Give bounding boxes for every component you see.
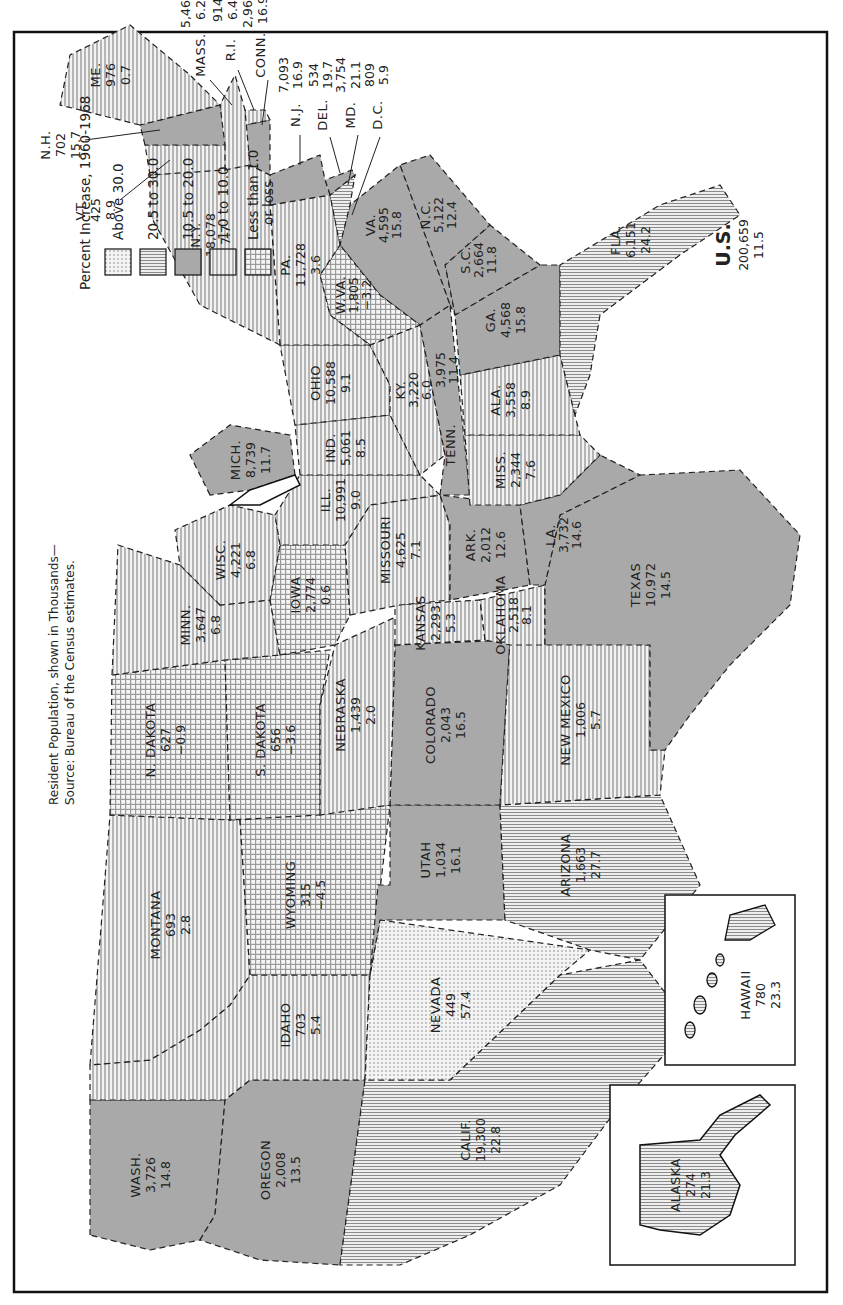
svg-text:OHIO: OHIO xyxy=(308,365,323,401)
svg-text:MICH.: MICH. xyxy=(228,440,243,480)
label-nj: N.J.7,09316.9 xyxy=(276,57,305,165)
svg-text:CALIF.: CALIF. xyxy=(458,1119,473,1161)
svg-text:8,739: 8,739 xyxy=(243,442,258,478)
svg-text:10,991: 10,991 xyxy=(333,478,348,522)
svg-text:6.4: 6.4 xyxy=(225,0,240,20)
svg-text:656: 656 xyxy=(268,728,283,752)
svg-text:MD.: MD. xyxy=(343,102,358,129)
svg-text:5.7: 5.7 xyxy=(588,710,603,730)
svg-text:24.2: 24.2 xyxy=(638,226,653,254)
svg-text:7,093: 7,093 xyxy=(276,57,291,93)
svg-text:OREGON: OREGON xyxy=(258,1140,273,1201)
us-total-population: 200,659 xyxy=(736,219,751,271)
title-line-2: Source: Bureau of the Census estimates. xyxy=(63,560,77,805)
svg-text:2,774: 2,774 xyxy=(303,577,318,613)
svg-text:WASH.: WASH. xyxy=(128,1152,143,1197)
svg-text:1,034: 1,034 xyxy=(433,842,448,878)
svg-text:1.0 to 10.0: 1.0 to 10.0 xyxy=(215,166,231,240)
svg-text:2.0: 2.0 xyxy=(363,705,378,725)
svg-text:0.7: 0.7 xyxy=(118,65,133,85)
svg-text:UTAH: UTAH xyxy=(418,841,433,878)
svg-text:3,558: 3,558 xyxy=(503,382,518,418)
svg-text:IND.: IND. xyxy=(323,433,338,463)
svg-text:N.J.: N.J. xyxy=(288,103,303,127)
svg-text:5.9: 5.9 xyxy=(376,65,391,85)
svg-text:23.3: 23.3 xyxy=(768,981,783,1009)
svg-text:2,012: 2,012 xyxy=(478,527,493,563)
svg-text:CONN.: CONN. xyxy=(253,32,268,77)
svg-text:10.5 to 20.0: 10.5 to 20.0 xyxy=(180,158,196,240)
svg-text:5.3: 5.3 xyxy=(443,613,458,633)
svg-text:6.2: 6.2 xyxy=(193,0,208,20)
svg-text:IDAHO: IDAHO xyxy=(278,1002,293,1047)
svg-text:ARIZONA: ARIZONA xyxy=(558,833,573,896)
svg-text:703: 703 xyxy=(293,1013,308,1037)
svg-text:MASS.: MASS. xyxy=(193,33,208,76)
svg-text:11.8: 11.8 xyxy=(484,246,499,274)
svg-text:16.9: 16.9 xyxy=(290,61,305,89)
svg-text:22.8: 22.8 xyxy=(488,1126,503,1154)
svg-text:8.1: 8.1 xyxy=(519,605,534,625)
svg-text:ALASKA: ALASKA xyxy=(668,1158,683,1212)
svg-text:19,300: 19,300 xyxy=(473,1118,488,1162)
label-sc: S.C.2,66411.8 xyxy=(458,242,499,278)
svg-text:21.3: 21.3 xyxy=(698,1171,713,1199)
svg-text:4,221: 4,221 xyxy=(228,542,243,578)
map-title: Resident Population, shown in Thousands—… xyxy=(47,544,77,805)
inset-hawaii: HAWAII 780 23.3 xyxy=(665,895,795,1065)
us-total-pct: 11.5 xyxy=(751,231,766,259)
state-fl[interactable] xyxy=(560,185,740,415)
legend-title: Percent Increase, 1960-1968 xyxy=(77,96,93,290)
svg-text:16.9: 16.9 xyxy=(255,0,270,24)
svg-text:7.6: 7.6 xyxy=(523,460,538,480)
svg-text:5,469: 5,469 xyxy=(178,0,193,28)
svg-text:3,647: 3,647 xyxy=(193,607,208,643)
svg-text:IOWA: IOWA xyxy=(288,576,303,613)
svg-text:4,625: 4,625 xyxy=(393,532,408,568)
svg-text:NEW MEXICO: NEW MEXICO xyxy=(558,674,573,765)
svg-text:12.6: 12.6 xyxy=(493,531,508,559)
svg-text:4,568: 4,568 xyxy=(498,302,513,338)
svg-text:8.9: 8.9 xyxy=(518,390,533,410)
us-total-label: U.S. xyxy=(712,223,734,267)
svg-text:2,963: 2,963 xyxy=(240,0,255,28)
svg-text:5,061: 5,061 xyxy=(338,430,353,466)
svg-text:8.5: 8.5 xyxy=(353,438,368,458)
svg-text:449: 449 xyxy=(443,993,458,1017)
svg-text:GA.: GA. xyxy=(483,308,498,332)
us-population-map: Resident Population, shown in Thousands—… xyxy=(0,0,843,1305)
svg-text:N. DAKOTA: N. DAKOTA xyxy=(143,702,158,777)
label-me: ME.9760.7 xyxy=(88,62,133,87)
svg-text:274: 274 xyxy=(683,1173,698,1197)
svg-text:Less than 1.0: Less than 1.0 xyxy=(245,150,261,240)
svg-text:2,008: 2,008 xyxy=(273,1152,288,1188)
svg-text:9.0: 9.0 xyxy=(348,490,363,510)
svg-text:2,043: 2,043 xyxy=(438,707,453,743)
svg-text:6.8: 6.8 xyxy=(208,615,223,635)
svg-text:12.4: 12.4 xyxy=(444,201,459,229)
svg-text:−4.5: −4.5 xyxy=(313,880,328,910)
svg-text:PA.: PA. xyxy=(278,254,293,275)
svg-text:10,588: 10,588 xyxy=(323,361,338,405)
inset-alaska: ALASKA 274 21.3 xyxy=(610,1085,795,1265)
svg-text:809: 809 xyxy=(362,63,377,87)
svg-text:KANSAS: KANSAS xyxy=(413,595,428,651)
svg-text:16.5: 16.5 xyxy=(453,711,468,739)
svg-text:TEXAS: TEXAS xyxy=(628,563,643,609)
svg-text:702: 702 xyxy=(53,133,68,157)
svg-text:ARK.: ARK. xyxy=(463,529,478,562)
svg-text:or loss: or loss xyxy=(260,181,276,225)
svg-text:0.6: 0.6 xyxy=(318,585,333,605)
svg-text:14.8: 14.8 xyxy=(158,1161,173,1189)
svg-text:13.5: 13.5 xyxy=(288,1156,303,1184)
svg-text:5.4: 5.4 xyxy=(308,1015,323,1035)
svg-text:S. DAKOTA: S. DAKOTA xyxy=(253,703,268,777)
svg-text:2,293: 2,293 xyxy=(428,605,443,641)
label-nh: N.H.70215.7 xyxy=(38,130,160,160)
svg-text:MONTANA: MONTANA xyxy=(148,890,163,959)
svg-text:−0.9: −0.9 xyxy=(173,725,188,755)
label-ut: UTAH1,03416.1 xyxy=(418,841,463,878)
svg-text:NEVADA: NEVADA xyxy=(428,977,443,1034)
svg-text:ME.: ME. xyxy=(88,62,103,87)
svg-text:Above 30.0: Above 30.0 xyxy=(110,163,126,240)
